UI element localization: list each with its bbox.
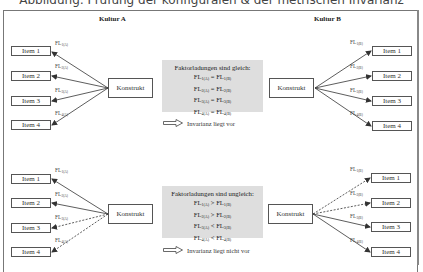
bottom-summary-header: Faktorladungen sind ungleich: [162,189,263,198]
bottom-a-item-3: Item 3 [11,223,51,233]
bottom-a-item-1: Item 1 [11,174,51,184]
top-conclusion: Invarianz liegt vor [163,119,235,127]
top-a-item-3: Item 3 [11,96,51,106]
top-summary-header: Faktorladungen sind gleich: [162,63,263,72]
bottom-summary-box: Faktorladungen sind ungleich: FL1(A) > F… [162,186,263,238]
top-eq-1: FL1(A) = FL1(B) [162,72,263,84]
bottom-b-item-4: Item 4 [371,247,411,257]
top-a-fl-1: FL1(A) [55,40,68,47]
top-a-item-4: Item 4 [11,120,51,130]
bottom-a-fl-4: FL4(A) [55,237,68,244]
top-a-fl-2: FL2(A) [55,63,68,70]
top-a-fl-4: FL4(A) [55,110,68,117]
top-a-fl-3: FL3(A) [55,87,68,94]
top-eq-2: FL2(A) = FL2(B) [162,84,263,96]
bottom-b-item-1: Item 1 [371,173,411,183]
bottom-b-fl-2: FL2(B) [350,190,363,197]
top-b-fl-1: FL1(B) [350,39,363,46]
top-a-item-2: Item 2 [11,71,51,81]
top-b-fl-3: FL3(B) [350,87,363,94]
bottom-eq-2: FL2(A) > FL2(B) [162,210,263,222]
bottom-b-konstrukt: Konstrukt [268,204,313,224]
bottom-a-fl-1: FL1(A) [55,167,68,174]
top-summary-box: Faktorladungen sind gleich: FL1(A) = FL1… [162,60,263,112]
block-arrow-icon [163,246,183,254]
top-b-item-3: Item 3 [372,96,412,106]
bottom-a-item-4: Item 4 [11,247,51,257]
bottom-eq-3: FL3(A) < FL3(B) [162,221,263,233]
top-b-item-1: Item 1 [372,46,412,56]
bottom-a-fl-3: FL3(A) [55,214,68,221]
top-eq-4: FL4(A) = FL4(B) [162,107,263,119]
top-conclusion-text: Invarianz liegt vor [187,120,235,127]
top-b-item-2: Item 2 [372,71,412,81]
bottom-conclusion: Invarianz liegt nicht vor [163,246,250,254]
bottom-a-konstrukt: Konstrukt [108,204,153,224]
top-b-item-4: Item 4 [372,121,412,131]
top-eq-3: FL3(A) = FL3(B) [162,95,263,107]
top-b-fl-2: FL2(B) [350,63,363,70]
bottom-b-fl-4: FL4(B) [350,237,363,244]
bottom-a-fl-2: FL2(A) [55,191,68,198]
bottom-b-fl-1: FL1(B) [350,166,363,173]
bottom-b-item-3: Item 3 [371,222,411,232]
bottom-eq-1: FL1(A) > FL1(B) [162,198,263,210]
bottom-eq-4: FL4(A) < FL4(B) [162,233,263,245]
bottom-b-fl-3: FL3(B) [350,213,363,220]
bottom-conclusion-text: Invarianz liegt nicht vor [187,247,250,254]
top-a-konstrukt: Konstrukt [108,78,153,98]
block-arrow-icon [163,119,183,127]
bottom-a-item-2: Item 2 [11,198,51,208]
top-a-item-1: Item 1 [11,46,51,56]
top-b-fl-4: FL4(B) [350,110,363,117]
bottom-b-item-2: Item 2 [371,198,411,208]
top-b-konstrukt: Konstrukt [269,78,314,98]
